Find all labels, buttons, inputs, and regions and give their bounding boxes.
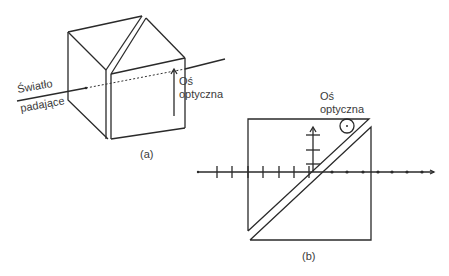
optic-axis-dot-icon bbox=[340, 119, 354, 133]
optic-axis-label-b-2: optyczna bbox=[320, 103, 365, 115]
caption-a: (a) bbox=[140, 148, 153, 160]
optic-axis-arrow-a bbox=[171, 69, 177, 116]
optic-axis-label-b-1: Oś bbox=[320, 90, 335, 102]
optic-axis-label-a-2: optyczna bbox=[179, 88, 224, 100]
optic-axis-label-a-1: Oś bbox=[179, 75, 194, 87]
prism-diagram: Światło padające Oś optyczna (a) bbox=[0, 0, 449, 276]
caption-b: (b) bbox=[302, 250, 315, 262]
prism-a bbox=[68, 16, 185, 139]
incident-light-label-2: padające bbox=[19, 94, 65, 114]
reflected-beam-b bbox=[306, 127, 320, 172]
prism-b bbox=[248, 119, 371, 240]
incident-light-label-1: Światło bbox=[16, 77, 53, 95]
